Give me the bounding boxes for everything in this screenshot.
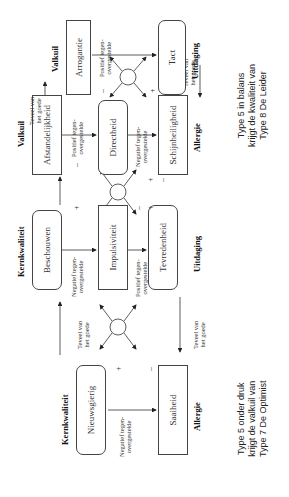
label-kernkwaliteit-1: Kernkwaliteit — [60, 394, 70, 445]
box-impulsiviteit: Impulsiviteit — [98, 205, 128, 290]
connector-text-2: Teveel van het goede — [192, 321, 206, 349]
label-valkuil-3: Valkuil — [16, 121, 26, 147]
minus-sign: – — [134, 206, 143, 210]
edge-text-positief-4: Positief tegen- overgestelde — [98, 39, 112, 77]
minus-sign: – — [98, 89, 107, 93]
caption-right: Type 5 in balans krijgt de kwaliteit van… — [236, 64, 269, 147]
box-tevredenheid: Tevredenheid — [148, 205, 178, 290]
plus-sign: + — [114, 366, 123, 371]
box-schijnheiligheid: Schijnheiligheid — [158, 95, 188, 175]
box-saaiheid: Saaiheid — [158, 365, 188, 455]
label-kernkwaliteit-2: Kernkwaliteit — [16, 226, 26, 277]
box-arrogantie: Arrogantie — [66, 20, 91, 95]
edge-text-negatief-2: Negatief tegen- overgestelde — [70, 257, 84, 297]
label-allergie-1: Allergie — [192, 402, 202, 431]
connector-text-1: Teveel van het goede — [76, 321, 90, 349]
label-allergie-3: Allergie — [192, 123, 202, 152]
minus-sign: – — [72, 163, 81, 167]
caption-left: Type 5 onder druk krijgt de valkuil van … — [236, 380, 269, 457]
box-directheid: Directheid — [98, 100, 128, 175]
plus-sign: + — [148, 88, 157, 93]
plus-sign: + — [72, 205, 81, 210]
edge-text-positief-2: Positief tegen- overgestelde — [134, 259, 148, 297]
box-beschouwen: Beschouwen — [32, 210, 62, 290]
connector-text-3: Teveel van het goede — [28, 97, 42, 125]
label-uitdaging-4: Uitdaging — [190, 43, 200, 79]
plus-sign: + — [146, 177, 155, 182]
label-uitdaging-2: Uitdaging — [192, 236, 202, 272]
diagram-canvas: Kernkwaliteit Nieuwsgierig Negatief tege… — [0, 0, 289, 497]
edge-text-negatief-1: Negatief tegen- overgestelde — [118, 417, 132, 457]
box-nieuwsgierig: Nieuwsgierig — [76, 365, 106, 455]
edge-text-positief-3: Positief tegen- overgestelde — [70, 119, 84, 157]
plus-sign: + — [146, 205, 155, 210]
box-tact: Tact — [158, 20, 186, 95]
minus-sign: – — [146, 367, 155, 371]
edge-text-negatief-3: Negatief tegen- overgestelde — [134, 127, 148, 167]
label-valkuil-4: Valkuil — [50, 46, 60, 72]
minus-sign: – — [158, 178, 167, 182]
